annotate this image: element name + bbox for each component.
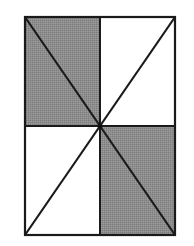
quadrant-diagonal-figure bbox=[0, 0, 194, 246]
center-point bbox=[98, 124, 103, 129]
